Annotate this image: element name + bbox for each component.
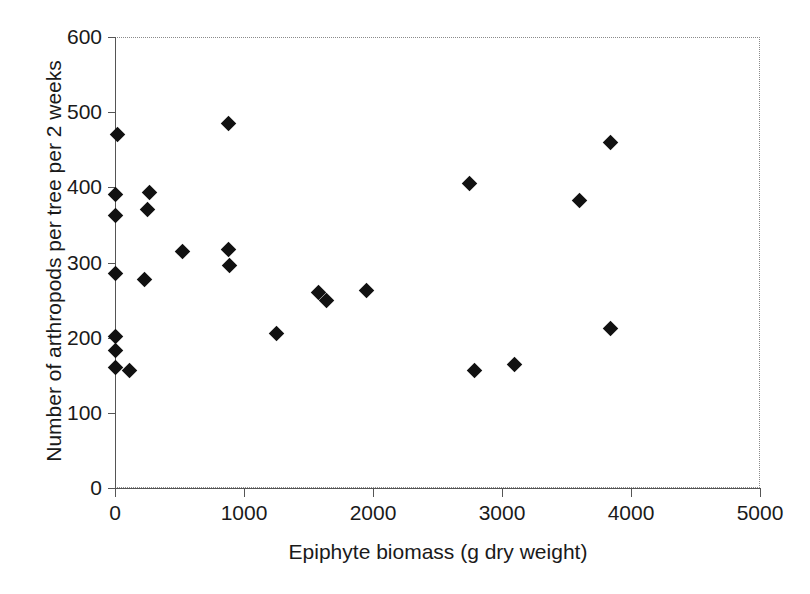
x-axis-tick xyxy=(244,489,245,497)
x-axis-tick xyxy=(502,489,503,497)
x-axis-tick-label: 3000 xyxy=(442,502,562,524)
y-axis-tick xyxy=(108,112,116,113)
x-axis-tick-label: 1000 xyxy=(184,502,304,524)
y-axis-tick xyxy=(108,263,116,264)
y-axis-title: Number of arthropods per tree per 2 week… xyxy=(42,11,66,511)
x-axis-tick xyxy=(373,489,374,497)
plot-area xyxy=(115,37,760,488)
x-axis-tick-label: 5000 xyxy=(700,502,810,524)
x-axis-tick xyxy=(631,489,632,497)
scatter-plot-figure: 0100200300400500600 01000200030004000500… xyxy=(0,0,810,594)
x-axis-line xyxy=(115,488,761,489)
x-axis-tick-label: 2000 xyxy=(313,502,433,524)
y-axis-tick xyxy=(108,37,116,38)
x-axis-tick xyxy=(760,489,761,497)
x-axis-title: Epiphyte biomass (g dry weight) xyxy=(115,540,761,564)
y-axis-tick xyxy=(108,413,116,414)
x-axis-tick-label: 4000 xyxy=(571,502,691,524)
x-axis-tick xyxy=(115,489,116,497)
x-axis-tick-label: 0 xyxy=(55,502,175,524)
